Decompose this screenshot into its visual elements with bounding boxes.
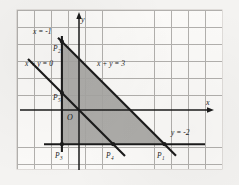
- label-point-P3-name: P: [55, 151, 60, 160]
- label-point-P1-name: P: [157, 151, 162, 160]
- label-point-P5: P5: [53, 94, 60, 103]
- point-dot-P2: [60, 40, 64, 44]
- label-x-axis: x: [206, 99, 210, 107]
- point-dot-P3: [60, 142, 64, 146]
- label-point-P1: P1: [157, 152, 164, 161]
- label-point-P5-name: P: [53, 93, 58, 102]
- label-origin: O: [67, 114, 73, 122]
- label-line-y-equals-minus-2: y = -2: [171, 129, 189, 137]
- label-point-P4-subscript: 4: [111, 155, 114, 161]
- label-line-x-plus-y-equals-0: x + y = 0: [25, 60, 53, 68]
- label-point-P3: P3: [55, 152, 62, 161]
- label-point-P4: P4: [106, 152, 113, 161]
- label-point-P5-subscript: 5: [58, 97, 61, 103]
- label-point-P2-name: P: [53, 44, 58, 53]
- label-point-P2: P2: [53, 45, 60, 54]
- figure-coordinate-diagram: x = -1 x + y = 3 x + y = 0 y = -2 y x O …: [0, 0, 239, 185]
- label-line-x-plus-y-equals-3: x + y = 3: [97, 60, 125, 68]
- label-point-P2-subscript: 2: [58, 48, 61, 54]
- label-point-P4-name: P: [106, 151, 111, 160]
- label-point-P3-subscript: 3: [60, 155, 63, 161]
- x-axis-arrowhead: [207, 107, 214, 112]
- label-y-axis: y: [81, 16, 85, 24]
- label-point-P1-subscript: 1: [162, 155, 165, 161]
- label-line-x-equals-minus-1: x = -1: [33, 28, 51, 36]
- point-dot-P1: [162, 142, 166, 146]
- point-dot-P4: [111, 142, 115, 146]
